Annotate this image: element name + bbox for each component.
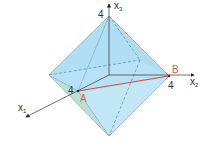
x1-tick-label: 4 xyxy=(68,85,74,96)
octahedron-diagram: 4 x3 4 x2 4 x1 A B xyxy=(0,0,216,142)
point-a xyxy=(77,90,80,93)
point-b xyxy=(168,75,171,78)
x3-axis-label: x3 xyxy=(114,0,123,12)
point-b-label: B xyxy=(172,64,179,75)
x2-tick-label: 4 xyxy=(168,80,174,91)
x3-tick-label: 4 xyxy=(98,9,104,20)
x1-axis-label: x1 xyxy=(18,102,27,114)
point-a-label: A xyxy=(80,93,87,104)
x2-axis-label: x2 xyxy=(190,76,199,88)
